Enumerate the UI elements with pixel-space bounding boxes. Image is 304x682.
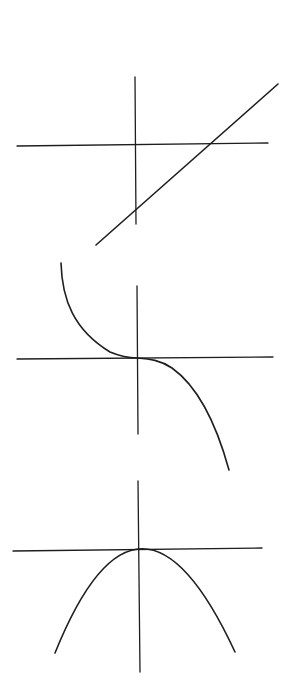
- y-axis: [137, 286, 138, 434]
- y-axis: [138, 481, 140, 672]
- linear-function-curve: [96, 84, 278, 245]
- x-axis: [17, 143, 268, 146]
- y-axis: [135, 77, 136, 224]
- graph-parabola: [13, 481, 262, 672]
- cubic-function-curve: [61, 263, 229, 470]
- function-graphs-diagram: [0, 0, 304, 682]
- parabola-function-curve: [55, 549, 235, 653]
- graph-linear: [17, 77, 278, 245]
- graph-cubic: [17, 263, 273, 470]
